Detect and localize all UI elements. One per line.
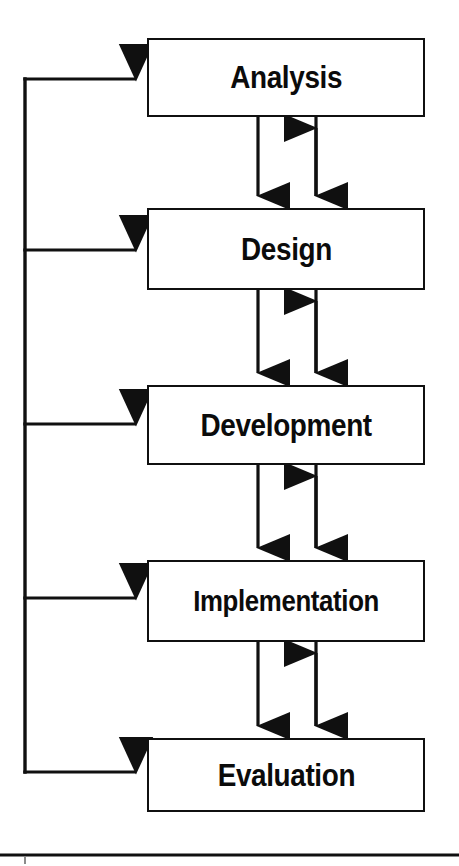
flow-arrow-development-implementation[interactable] xyxy=(248,465,268,548)
feedback-arrow-analysis[interactable] xyxy=(18,71,154,87)
stage-box-design[interactable]: Design xyxy=(147,208,425,290)
flow-arrow-analysis-design[interactable] xyxy=(248,117,268,196)
bidir-arrow-implementation-evaluation[interactable] xyxy=(305,642,327,726)
bidir-arrow-development-implementation[interactable] xyxy=(305,465,327,548)
stage-label-implementation: Implementation xyxy=(193,586,379,616)
stage-box-development[interactable]: Development xyxy=(147,385,425,465)
stage-box-analysis[interactable]: Analysis xyxy=(147,38,425,117)
addie-model-diagram: Analysis Design Development Implementati… xyxy=(0,0,459,866)
flow-arrow-design-development[interactable] xyxy=(248,290,268,373)
feedback-arrow-design[interactable] xyxy=(18,242,154,258)
stage-label-analysis: Analysis xyxy=(230,62,342,93)
bidir-arrow-design-development[interactable] xyxy=(305,290,327,373)
stage-label-development: Development xyxy=(200,410,371,441)
feedback-arrow-implementation[interactable] xyxy=(18,590,154,606)
footer-rule xyxy=(0,848,459,862)
stage-label-design: Design xyxy=(241,234,332,265)
feedback-arrow-development[interactable] xyxy=(18,416,154,432)
bidir-arrow-analysis-design[interactable] xyxy=(305,117,327,196)
stage-box-implementation[interactable]: Implementation xyxy=(147,560,425,642)
feedback-arrow-evaluation[interactable] xyxy=(18,764,154,780)
stage-label-evaluation: Evaluation xyxy=(217,760,354,791)
flow-arrow-implementation-evaluation[interactable] xyxy=(248,642,268,726)
stage-box-evaluation[interactable]: Evaluation xyxy=(147,738,425,812)
